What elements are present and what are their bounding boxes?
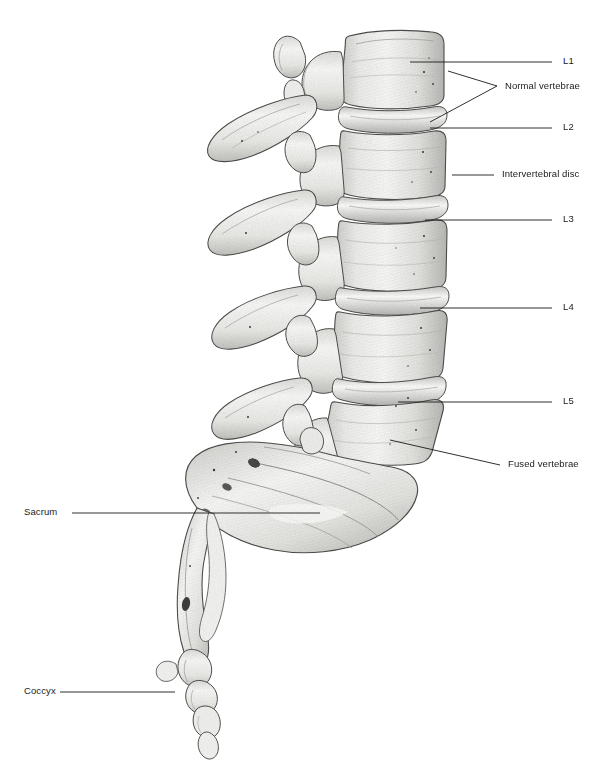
label-l5: L5 (563, 396, 574, 406)
L1-articular-process (274, 36, 306, 78)
label-l4: L4 (563, 302, 574, 312)
intervertebral-disc-L3-L4 (335, 286, 449, 315)
label-normal-vertebrae: Normal vertebrae (505, 81, 580, 91)
spine-illustration (0, 0, 609, 783)
L2-articular-process (285, 131, 316, 172)
intervertebral-disc-L1-L2 (338, 106, 447, 133)
L4-articular-process (286, 315, 318, 356)
coccyx (156, 649, 220, 759)
label-l3: L3 (563, 214, 574, 224)
label-l2: L2 (563, 122, 574, 132)
vertebra-L2 (338, 131, 446, 200)
label-coccyx: Coccyx (24, 686, 56, 696)
vertebra-L3 (336, 220, 447, 292)
vertebra-L4 (332, 311, 447, 384)
bone-group (156, 30, 449, 759)
L3-articular-process (287, 223, 318, 265)
leader-normal-upper (448, 71, 497, 86)
vertebra-L1 (341, 30, 444, 109)
vertebra-L5 (323, 397, 443, 465)
label-l1: L1 (563, 56, 574, 66)
illustration-canvas: L1 Normal vertebrae L2 Intervertebral di… (0, 0, 609, 783)
label-sacrum: Sacrum (24, 507, 57, 517)
label-fused-vertebrae: Fused vertebrae (508, 459, 579, 469)
label-intervertebral-disc: Intervertebral disc (502, 169, 579, 179)
